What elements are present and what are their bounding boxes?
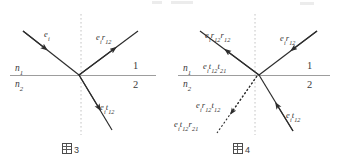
- incident-ray-arrow: [23, 31, 45, 48]
- medium-n2-label: n2: [183, 79, 191, 89]
- figure-4-rays: [169, 0, 339, 161]
- figure-3-rays: [0, 0, 169, 161]
- reflected-ray-arrow: [79, 49, 114, 75]
- incident-reflected-ray-label: eir12: [280, 34, 296, 43]
- medium-n2-label: n2: [15, 79, 23, 89]
- figure-4-caption: 4: [233, 142, 250, 155]
- double-transmitted-ray-label: eit12t21: [203, 62, 226, 71]
- tofu-glyph-icon: [62, 143, 72, 154]
- region-2-label: 2: [133, 79, 138, 90]
- transmitted-ray-arrow: [79, 75, 99, 108]
- incident-ray-label: ei: [44, 30, 50, 39]
- reflected-transmitted-ray-label: eir12t12: [196, 101, 220, 110]
- incident-reflected-ray-arrow: [293, 31, 317, 49]
- transmitted-reflected-ray-label: eit12r21: [174, 120, 198, 129]
- region-1-label: 1: [133, 60, 138, 71]
- transmitted-ray-label: eit12: [100, 103, 115, 112]
- region-1-label: 1: [307, 60, 312, 71]
- figure-3: ei eir12 eit12 n1 n2 1 2 3: [0, 0, 169, 161]
- double-reflected-ray-label: eir12r12: [205, 31, 230, 40]
- transmitted-ray-label: eit12: [286, 111, 301, 120]
- reflected-transmitted-ray-line: [217, 76, 257, 133]
- figure-3-caption: 3: [62, 142, 79, 155]
- tofu-glyph-icon: [233, 143, 243, 154]
- medium-n1-label: n1: [183, 63, 191, 73]
- reflected-ray-label: eir12: [96, 33, 112, 42]
- region-2-label: 2: [307, 79, 312, 90]
- reflected-transmitted-ray-arrow: [232, 76, 257, 112]
- figure-4: eir12r12 eir12 eit12t21 eir12t12 eit12r2…: [169, 0, 339, 161]
- medium-n1-label: n1: [15, 63, 23, 73]
- double-reflected-ray-arrow: [227, 51, 259, 75]
